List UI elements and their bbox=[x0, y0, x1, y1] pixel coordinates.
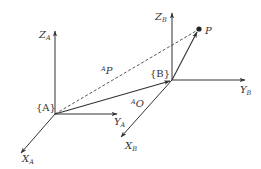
frame-a: ZA YA XA {A} bbox=[21, 29, 126, 166]
frame-a-label: {A} bbox=[36, 102, 56, 113]
point-p-label: P bbox=[204, 25, 212, 36]
vector-b-to-p bbox=[172, 32, 197, 80]
vector-ap-label: AP bbox=[100, 65, 113, 76]
point-p-dot bbox=[196, 26, 201, 31]
frame-b-label: {B} bbox=[150, 68, 170, 79]
frame-b-x-label: XB bbox=[124, 140, 137, 153]
vector-a-to-p bbox=[55, 31, 196, 114]
vectors: AP AO bbox=[55, 31, 197, 114]
frame-b-y-label: YB bbox=[240, 84, 252, 97]
frame-b-x-axis bbox=[121, 80, 172, 137]
frame-b: ZB YB XB {B} bbox=[121, 11, 252, 153]
frame-a-z-label: ZA bbox=[38, 29, 51, 42]
coordinate-frames-diagram: ZA YA XA {A} ZB YB XB {B} AP AO P bbox=[0, 0, 261, 169]
frame-a-x-axis bbox=[21, 114, 55, 153]
vector-a-to-b bbox=[55, 81, 170, 114]
vector-ao-label: AO bbox=[130, 98, 144, 109]
frame-a-x-label: XA bbox=[21, 153, 34, 166]
frame-a-y-label: YA bbox=[114, 116, 126, 129]
frame-b-z-label: ZB bbox=[154, 11, 167, 24]
point-p: P bbox=[196, 25, 212, 36]
